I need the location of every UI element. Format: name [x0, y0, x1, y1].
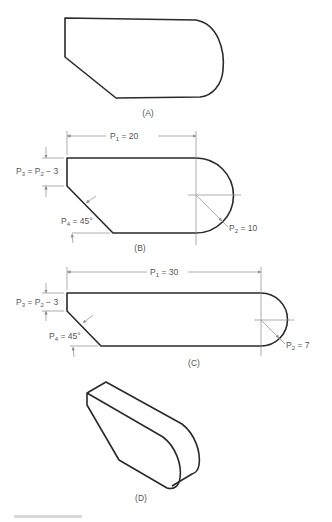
figure-b-p1-label: P1 = 20 [110, 131, 138, 142]
figure-c-p2-label: P2 = 7 [286, 340, 310, 351]
figure-c-p1-label: P1 = 30 [150, 267, 178, 278]
figure-b-caption: (B) [134, 243, 146, 253]
figure-d-front-face [87, 393, 180, 489]
figure-b-p3-label: P3 = P2 − 3 [16, 166, 58, 177]
figure-a-outline [65, 18, 223, 98]
figure-c-outline [67, 293, 288, 346]
figure-d-caption: (D) [135, 493, 147, 503]
figure-d: (D) [87, 382, 199, 503]
figure-b: P1 = 20 P2 = 10 P3 = P2 − 3 P4 = 45° (B) [16, 131, 257, 253]
figure-a: (A) [65, 18, 223, 118]
figure-b-p2-label: P2 = 10 [229, 223, 257, 234]
figure-b-p4-label: P4 = 45° [61, 216, 93, 227]
figure-c-caption: (C) [188, 358, 200, 368]
figure-a-caption: (A) [142, 108, 154, 118]
figure-c-p4-label: P4 = 45° [49, 331, 81, 342]
footer-bar [14, 515, 82, 518]
parametric-drawing: (A) P1 = 20 P2 = 10 P3 = P2 − 3 P4 = 45°… [0, 0, 332, 522]
figure-c-p3-label: P3 = P2 − 3 [16, 297, 58, 308]
figure-c: P1 = 30 P2 = 7 P3 = P2 − 3 P4 = 45° (C) [16, 267, 310, 368]
